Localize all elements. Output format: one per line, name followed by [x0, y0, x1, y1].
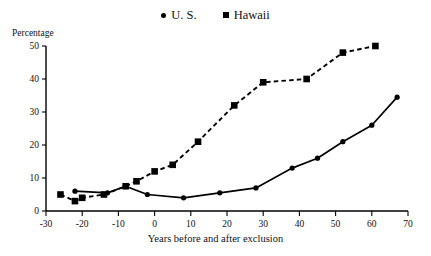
- data-point-marker: [303, 76, 310, 83]
- x-tick-label: 30: [258, 219, 268, 229]
- x-tick-label: 0: [152, 219, 157, 229]
- y-axis-ticks: 01020304050: [30, 41, 47, 216]
- series-line: [75, 97, 397, 198]
- series-line: [60, 46, 375, 201]
- series-hawaii: [57, 43, 379, 205]
- data-point-marker: [260, 79, 267, 86]
- x-tick-label: 70: [403, 219, 413, 229]
- x-tick-label: -20: [76, 219, 89, 229]
- data-point-marker: [72, 198, 79, 205]
- data-point-marker: [369, 123, 374, 128]
- x-axis-ticks: -30-20-10010203040506070: [40, 211, 413, 229]
- x-tick-label: 60: [367, 219, 377, 229]
- y-tick-label: 30: [30, 107, 40, 117]
- data-point-marker: [181, 195, 186, 200]
- data-point-marker: [133, 178, 140, 185]
- data-point-marker: [253, 185, 258, 190]
- data-point-marker: [195, 138, 202, 145]
- y-tick-label: 20: [30, 140, 40, 150]
- x-tick-label: 10: [186, 219, 196, 229]
- data-point-marker: [79, 195, 86, 202]
- data-point-marker: [169, 162, 176, 169]
- data-point-marker: [315, 156, 320, 161]
- data-point-marker: [101, 191, 108, 198]
- data-point-marker: [231, 102, 238, 109]
- y-tick-label: 0: [34, 206, 39, 216]
- x-tick-label: 40: [295, 219, 305, 229]
- axis-group: [46, 46, 408, 211]
- data-point-marker: [57, 191, 64, 198]
- x-tick-label: 20: [222, 219, 232, 229]
- data-point-marker: [72, 189, 77, 194]
- y-tick-label: 10: [30, 173, 40, 183]
- data-point-marker: [217, 190, 222, 195]
- data-point-marker: [340, 49, 347, 56]
- x-tick-label: -10: [112, 219, 125, 229]
- chart-plot-area: 01020304050 -30-20-10010203040506070: [0, 0, 431, 256]
- data-point-marker: [372, 43, 379, 50]
- x-tick-label: 50: [331, 219, 341, 229]
- series-u-s: [72, 95, 399, 201]
- x-tick-label: -30: [40, 219, 53, 229]
- data-series-layer: [57, 43, 400, 205]
- data-point-marker: [122, 183, 129, 190]
- chart-page: U. S. Hawaii Percentage Years before and…: [0, 0, 431, 256]
- data-point-marker: [290, 166, 295, 171]
- data-point-marker: [395, 95, 400, 100]
- data-point-marker: [151, 168, 158, 175]
- y-tick-label: 40: [30, 74, 40, 84]
- y-tick-label: 50: [30, 41, 40, 51]
- data-point-marker: [340, 139, 345, 144]
- data-point-marker: [145, 192, 150, 197]
